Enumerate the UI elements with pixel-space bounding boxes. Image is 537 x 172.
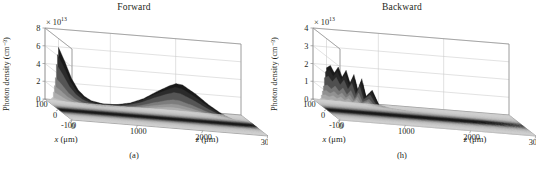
svg-text:× 1013: × 1013 (314, 16, 335, 26)
svg-text:1000: 1000 (398, 127, 415, 136)
svg-text:4: 4 (304, 24, 309, 33)
subfigure-caption-b: (h) (268, 150, 536, 160)
svg-text:8: 8 (36, 24, 40, 33)
svg-text:x (μm): x (μm) (54, 134, 78, 144)
svg-text:100: 100 (35, 100, 47, 109)
svg-text:z (μm): z (μm) (195, 134, 219, 144)
axes-3d-backward: 01234× 10131000-1000100020003000x (μm)z … (303, 16, 536, 147)
svg-text:0: 0 (53, 111, 57, 120)
svg-text:3: 3 (304, 42, 308, 51)
plot-surface-backward: 01234× 10131000-1000100020003000x (μm)z … (268, 0, 536, 172)
svg-text:3000: 3000 (529, 138, 536, 147)
panel-backward: Backward 01234× 10131000-100010002000300… (268, 0, 536, 172)
svg-text:3000: 3000 (261, 138, 268, 147)
svg-text:0: 0 (71, 122, 75, 131)
panel-forward: Forward Photon density (cm⁻³) 02468× 101… (0, 0, 268, 172)
subfigure-caption-a: (a) (0, 150, 268, 160)
svg-text:z (μm): z (μm) (463, 134, 487, 144)
svg-text:× 1013: × 1013 (46, 16, 67, 26)
svg-text:4: 4 (36, 60, 41, 69)
svg-text:0: 0 (321, 111, 325, 120)
svg-text:2: 2 (36, 77, 40, 86)
svg-text:1000: 1000 (130, 127, 147, 136)
svg-text:6: 6 (36, 42, 40, 51)
svg-text:1: 1 (304, 77, 308, 86)
svg-text:0: 0 (339, 122, 343, 131)
svg-text:x (μm): x (μm) (322, 134, 346, 144)
figure-container: Forward Photon density (cm⁻³) 02468× 101… (0, 0, 537, 172)
surface-mesh (314, 65, 536, 136)
plot-surface-forward: 02468× 10131000-1000100020003000x (μm)z … (0, 0, 268, 172)
svg-text:2: 2 (304, 60, 308, 69)
y-axis-label-backward: Photon density (cm⁻³) (270, 26, 280, 122)
surface-mesh (47, 47, 267, 135)
svg-text:100: 100 (303, 100, 315, 109)
axes-3d-forward: 02468× 10131000-1000100020003000x (μm)z … (35, 16, 268, 147)
